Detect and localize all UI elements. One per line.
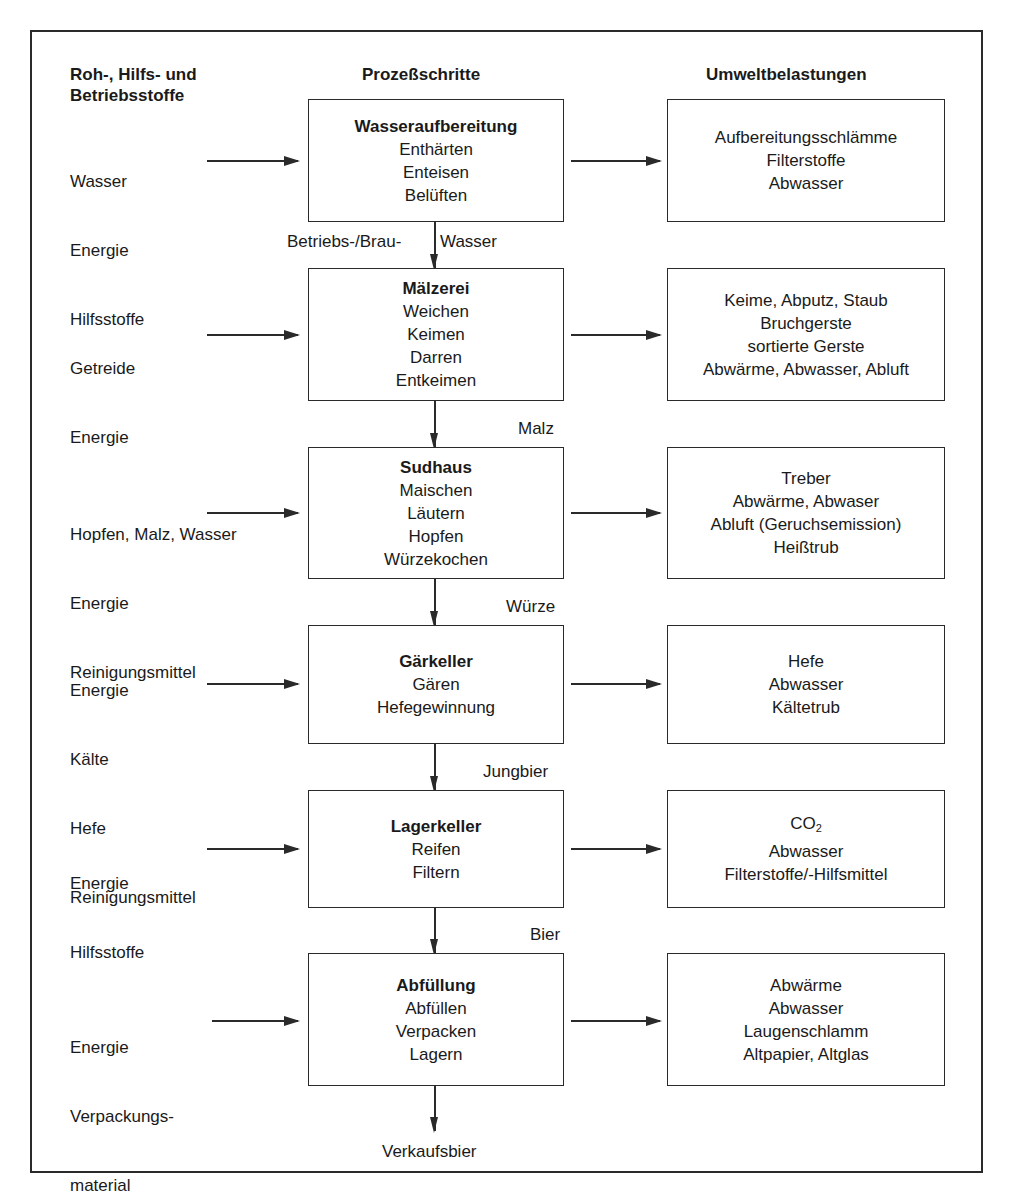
- emission-item: Filterstoffe/-Hilfsmittel: [724, 863, 887, 886]
- emissions-box-gaerkeller: Hefe Abwasser Kältetrub: [667, 625, 945, 744]
- flow-label-jungbier: Jungbier: [483, 761, 548, 782]
- emission-item: Abwasser: [769, 840, 844, 863]
- process-operation: Lagern: [410, 1043, 463, 1066]
- process-box-abfuellung: Abfüllung Abfüllen Verpacken Lagern: [308, 953, 564, 1086]
- process-title: Lagerkeller: [391, 815, 482, 838]
- process-operation: Enthärten: [399, 138, 473, 161]
- step-inputs-lagerkeller: Energie Hilfsstoffe: [70, 826, 144, 987]
- process-operation: Gären: [412, 673, 459, 696]
- flow-arrow-icon: [434, 908, 436, 953]
- emission-item: Hefe: [788, 650, 824, 673]
- input-item: Verpackungs-: [70, 1105, 174, 1128]
- header-inputs-line1: Roh-, Hilfs- und: [70, 64, 197, 85]
- flow-label-verkaufsbier: Verkaufsbier: [382, 1141, 477, 1162]
- output-arrow-icon: [571, 1020, 660, 1022]
- process-operation: Läutern: [407, 502, 465, 525]
- process-operation: Weichen: [403, 300, 469, 323]
- process-operation: Entkeimen: [396, 369, 476, 392]
- flow-label-brauwasser-left: Betriebs-/Brau-: [287, 231, 401, 252]
- emission-item: Bruchgerste: [760, 312, 852, 335]
- co2-base: CO: [790, 814, 816, 833]
- input-item: Hilfsstoffe: [70, 941, 144, 964]
- emissions-box-sudhaus: Treber Abwärme, Abwaser Abluft (Geruchse…: [667, 447, 945, 579]
- input-arrow-icon: [207, 683, 298, 685]
- input-arrow-icon: [207, 512, 298, 514]
- process-box-maelzerei: Mälzerei Weichen Keimen Darren Entkeimen: [308, 268, 564, 401]
- process-title: Sudhaus: [400, 456, 472, 479]
- process-title: Mälzerei: [402, 277, 469, 300]
- header-process: Prozeßschritte: [362, 64, 480, 85]
- input-arrow-icon: [212, 1020, 298, 1022]
- process-box-lagerkeller: Lagerkeller Reifen Filtern: [308, 790, 564, 908]
- emission-item: Altpapier, Altglas: [743, 1043, 869, 1066]
- process-box-sudhaus: Sudhaus Maischen Läutern Hopfen Würzekoc…: [308, 447, 564, 579]
- flow-arrow-icon: [434, 401, 436, 447]
- emission-item: Laugenschlamm: [744, 1020, 869, 1043]
- process-operation: Reifen: [411, 838, 460, 861]
- emission-item: Abwasser: [769, 673, 844, 696]
- process-operation: Maischen: [400, 479, 473, 502]
- process-operation: Abfüllen: [405, 997, 466, 1020]
- output-arrow-icon: [571, 512, 660, 514]
- output-arrow-icon: [571, 334, 660, 336]
- input-arrow-icon: [207, 334, 298, 336]
- step-inputs-abfuellung: Energie Verpackungs- material: [70, 990, 174, 1204]
- flow-label-wuerze: Würze: [506, 596, 555, 617]
- flow-arrow-icon: [434, 579, 436, 625]
- flow-label-malz: Malz: [518, 418, 554, 439]
- input-item: Energie: [70, 239, 144, 262]
- process-title: Wasseraufbereitung: [355, 115, 518, 138]
- emissions-box-abfuellung: Abwärme Abwasser Laugenschlamm Altpapier…: [667, 953, 945, 1086]
- emission-item: Kältetrub: [772, 696, 840, 719]
- flow-arrow-icon: [434, 744, 436, 790]
- input-item: Hopfen, Malz, Wasser: [70, 523, 237, 546]
- process-title: Gärkeller: [399, 650, 473, 673]
- input-arrow-icon: [207, 160, 298, 162]
- process-operation: Hefegewinnung: [377, 696, 495, 719]
- emission-item: Abwärme, Abwasser, Abluft: [703, 358, 909, 381]
- process-operation: Filtern: [412, 861, 459, 884]
- flow-label-brauwasser-right: Wasser: [440, 231, 497, 252]
- output-arrow-icon: [571, 160, 660, 162]
- process-operation: Keimen: [407, 323, 465, 346]
- emission-item: Aufbereitungsschlämme: [715, 126, 897, 149]
- input-arrow-icon: [207, 848, 298, 850]
- process-title: Abfüllung: [396, 974, 475, 997]
- flow-arrow-icon: [434, 222, 436, 268]
- input-item: Energie: [70, 1036, 174, 1059]
- output-arrow-icon: [571, 683, 660, 685]
- process-box-gaerkeller: Gärkeller Gären Hefegewinnung: [308, 625, 564, 744]
- header-emissions: Umweltbelastungen: [706, 64, 867, 85]
- process-operation: Darren: [410, 346, 462, 369]
- emission-item: Heißtrub: [773, 536, 838, 559]
- process-operation: Hopfen: [409, 525, 464, 548]
- header-inputs-line2: Betriebsstoffe: [70, 85, 197, 106]
- emissions-box-wasseraufbereitung: Aufbereitungsschlämme Filterstoffe Abwas…: [667, 99, 945, 222]
- input-item: Energie: [70, 592, 237, 615]
- emission-item-co2: CO2: [790, 812, 822, 840]
- output-arrow-icon: [571, 848, 660, 850]
- co2-subscript: 2: [816, 822, 822, 834]
- input-item: material: [70, 1174, 174, 1197]
- step-inputs-maelzerei: Getreide Energie: [70, 311, 135, 472]
- process-operation: Würzekochen: [384, 548, 488, 571]
- emission-item: Abwasser: [769, 172, 844, 195]
- emissions-box-maelzerei: Keime, Abputz, Staub Bruchgerste sortier…: [667, 268, 945, 401]
- emissions-box-lagerkeller: CO2 Abwasser Filterstoffe/-Hilfsmittel: [667, 790, 945, 908]
- emission-item: Abluft (Geruchsemission): [711, 513, 902, 536]
- flow-label-bier: Bier: [530, 924, 560, 945]
- emission-item: sortierte Gerste: [747, 335, 864, 358]
- input-item: Getreide: [70, 357, 135, 380]
- input-item: Kälte: [70, 748, 196, 771]
- input-item: Energie: [70, 679, 196, 702]
- emission-item: Abwasser: [769, 997, 844, 1020]
- flow-arrow-icon: [434, 1086, 436, 1131]
- emission-item: Treber: [781, 467, 830, 490]
- emission-item: Abwärme, Abwaser: [733, 490, 879, 513]
- emission-item: Abwärme: [770, 974, 842, 997]
- input-item: Wasser: [70, 170, 144, 193]
- process-box-wasseraufbereitung: Wasseraufbereitung Enthärten Enteisen Be…: [308, 99, 564, 222]
- process-operation: Belüften: [405, 184, 467, 207]
- emission-item: Filterstoffe: [766, 149, 845, 172]
- emission-item: Keime, Abputz, Staub: [724, 289, 888, 312]
